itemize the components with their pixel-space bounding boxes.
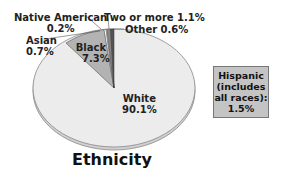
label-asian: Asian 0.7%: [26, 35, 57, 57]
label-white: White 90.1%: [122, 93, 157, 115]
chart-title: Ethnicity: [72, 150, 152, 169]
label-black: Black 7.3%: [72, 42, 110, 64]
label-other: Other 0.6%: [125, 24, 188, 35]
label-native-american: Native American 0.2%: [14, 12, 107, 34]
hispanic-annotation-box: Hispanic (includes all races): 1.5%: [213, 66, 269, 118]
label-two-or-more: Two or more 1.1%: [104, 12, 205, 23]
